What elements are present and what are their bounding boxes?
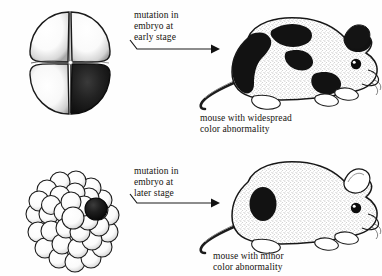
mouse-mutation-figure: mutation in embryo at early stage — [0, 0, 382, 276]
morula-cells — [26, 171, 119, 272]
four-cell-embryo-illustration — [14, 6, 126, 118]
mouse-bottom-eye — [351, 203, 361, 213]
caption-minor-abnormality: mouse with minor color abnormality — [213, 251, 363, 273]
mouse-minor-illustration — [196, 152, 382, 258]
mouse-widespread-illustration — [196, 8, 382, 116]
morula-mutant-cell — [85, 198, 107, 220]
mouse-top-whiskers — [372, 80, 381, 95]
mouse-top-eye-glint — [353, 61, 356, 64]
mouse-top-tail — [201, 82, 236, 109]
mouse-bottom-ear — [344, 169, 370, 193]
mouse-bottom-tail — [201, 226, 236, 253]
caption-widespread-abnormality: mouse with widespread color abnormality — [200, 113, 350, 135]
mouse-bottom-eye-glint — [353, 205, 356, 208]
embryo-center-highlight — [68, 60, 72, 64]
blastomere-bottom-right-mutant — [71, 64, 110, 114]
blastomere-top-right — [71, 12, 110, 62]
mouse-bottom-patch-spot — [250, 187, 277, 221]
morula-embryo-illustration — [14, 168, 126, 272]
mouse-bottom-whiskers — [372, 224, 381, 239]
blastomere-top-left — [30, 12, 69, 62]
blastomere-bottom-left — [30, 64, 69, 114]
mouse-top-eye — [351, 59, 361, 69]
